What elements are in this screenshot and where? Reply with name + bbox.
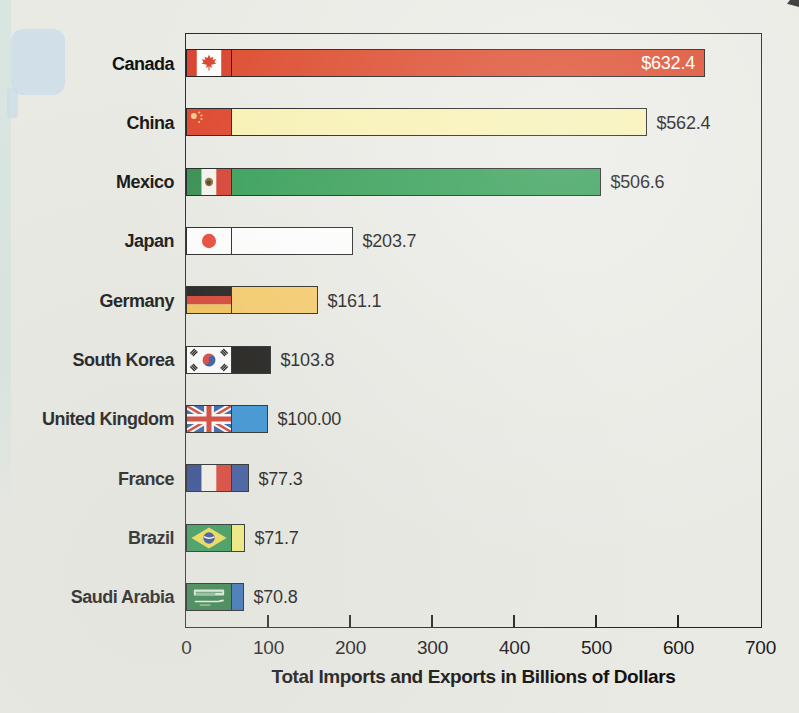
bar-south-korea: [186, 346, 271, 374]
x-tick-100: [267, 615, 269, 627]
bar-united-kingdom: [186, 405, 268, 433]
bar-fill-south-korea: [232, 347, 270, 373]
value-label-brazil: $71.7: [255, 527, 299, 549]
x-tick-label-0: 0: [152, 637, 222, 659]
country-label-france: France: [0, 468, 174, 490]
bar-saudi-arabia: [186, 583, 244, 611]
x-tick-label-300: 300: [398, 637, 468, 659]
value-label-canada: $632.4: [641, 53, 695, 74]
bar-canada: $632.4: [186, 49, 705, 77]
country-label-south-korea: South Korea: [0, 349, 174, 371]
bar-japan: [186, 227, 353, 255]
japan-flag-icon: [187, 228, 232, 254]
bar-germany: [186, 286, 318, 314]
bar-fill-mexico: [232, 169, 600, 195]
bar-fill-canada: [232, 50, 704, 76]
country-label-china: China: [0, 112, 174, 134]
country-label-japan: Japan: [0, 230, 174, 252]
bar-fill-china: [232, 109, 646, 135]
bar-fill-japan: [232, 228, 352, 254]
china-flag-icon: [187, 109, 232, 135]
bar-fill-united-kingdom: [232, 406, 267, 432]
value-label-france: $77.3: [259, 468, 303, 490]
saudi-arabia-flag-icon: [187, 584, 232, 610]
country-label-mexico: Mexico: [0, 171, 174, 193]
united-kingdom-flag-icon: [187, 406, 232, 432]
value-label-japan: $203.7: [363, 230, 417, 252]
x-tick-200: [349, 615, 351, 627]
bar-france: [186, 464, 249, 492]
bar-fill-brazil: [232, 525, 244, 551]
bar-fill-germany: [232, 287, 317, 313]
canada-flag-icon: [187, 50, 232, 76]
value-label-saudi-arabia: $70.8: [254, 586, 298, 608]
x-tick-500: [595, 615, 597, 627]
page-corner-mark: [787, 0, 799, 7]
south-korea-flag-icon: [187, 347, 232, 373]
value-label-mexico: $506.6: [611, 171, 665, 193]
x-tick-300: [431, 615, 433, 627]
x-tick-label-200: 200: [316, 637, 386, 659]
country-label-brazil: Brazil: [0, 527, 174, 549]
bar-mexico: [186, 168, 601, 196]
x-tick-400: [513, 615, 515, 627]
x-tick-label-500: 500: [562, 637, 632, 659]
x-tick-label-700: 700: [726, 637, 796, 659]
value-label-south-korea: $103.8: [281, 349, 335, 371]
mexico-flag-icon: [187, 169, 232, 195]
scanned-textbook-page: $632.4 CanadaChinaMexicoJapanGermanySout…: [0, 0, 799, 713]
country-label-germany: Germany: [0, 290, 174, 312]
country-label-saudi-arabia: Saudi Arabia: [0, 586, 174, 608]
brazil-flag-icon: [187, 525, 232, 551]
page-edge-tint-band: [0, 0, 11, 520]
france-flag-icon: [187, 465, 232, 491]
x-tick-600: [677, 615, 679, 627]
bar-china: [186, 108, 647, 136]
value-label-united-kingdom: $100.00: [278, 408, 342, 430]
germany-flag-icon: [187, 287, 232, 313]
bar-fill-saudi-arabia: [232, 584, 243, 610]
country-label-canada: Canada: [0, 53, 174, 75]
x-tick-label-100: 100: [234, 637, 304, 659]
bar-brazil: [186, 524, 245, 552]
x-tick-label-400: 400: [480, 637, 550, 659]
value-label-china: $562.4: [657, 112, 711, 134]
x-tick-label-600: 600: [644, 637, 714, 659]
country-label-united-kingdom: United Kingdom: [0, 408, 174, 430]
x-axis-title: Total Imports and Exports in Billions of…: [185, 666, 762, 688]
value-label-germany: $161.1: [328, 290, 382, 312]
bar-fill-france: [232, 465, 248, 491]
